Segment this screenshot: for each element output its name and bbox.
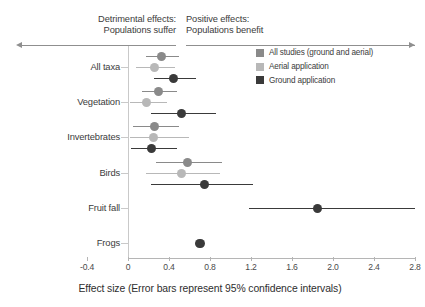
category-axis-tick [121,67,128,68]
x-axis-tick-label: 1.2 [231,262,271,272]
x-axis-tick-label: -0.4 [67,262,107,272]
data-point-marker [150,122,159,131]
x-axis-line [128,258,415,259]
x-axis-tick-label: 0.8 [190,262,230,272]
category-label: Birds [8,167,120,178]
x-axis-tick [333,257,334,261]
category-axis-tick [121,243,128,244]
x-axis-tick [87,257,88,261]
x-axis-tick-label: 2.4 [354,262,394,272]
data-point-marker [177,169,186,178]
category-label: Fruit fall [8,202,120,213]
category-axis-tick [121,208,128,209]
x-axis-tick [374,257,375,261]
x-axis-tick-label: 1.6 [272,262,312,272]
x-axis-tick [210,257,211,261]
x-axis-tick [251,257,252,261]
error-bar [130,137,189,138]
category-label: Vegetation [8,96,120,107]
data-point-marker [157,52,166,61]
x-axis-tick [292,257,293,261]
category-label: Frogs [8,237,120,248]
data-point-marker [142,98,151,107]
zero-reference-line [128,46,129,258]
error-bar [249,208,415,209]
data-point-marker [183,158,192,167]
category-label: All taxa [8,61,120,72]
x-axis-tick-label: 2.0 [313,262,353,272]
data-point-marker [177,109,186,118]
x-axis-tick [169,257,170,261]
data-point-marker [147,144,156,153]
x-axis-tick-label: 0 [108,262,148,272]
category-axis-tick [121,173,128,174]
x-axis-tick [128,257,129,261]
data-point-marker [169,74,178,83]
data-point-marker [313,204,323,214]
data-point-marker [195,239,205,249]
data-point-marker [154,87,163,96]
data-point-marker [200,180,209,189]
data-point-marker [150,63,159,72]
x-axis-tick-label: 2.8 [395,262,425,272]
category-axis-tick [121,137,128,138]
x-axis-tick-label: 0.4 [149,262,189,272]
category-label: Invertebrates [8,131,120,142]
x-axis-title: Effect size (Error bars represent 95% co… [0,283,420,294]
x-axis-tick [415,257,416,261]
data-point-marker [149,133,158,142]
category-axis-tick [121,102,128,103]
